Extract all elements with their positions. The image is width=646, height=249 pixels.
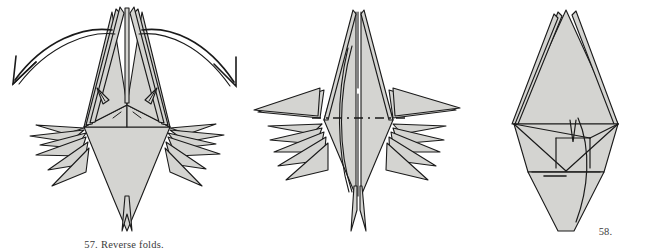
figure-57-number: 57. (84, 239, 98, 249)
figure-59-paper (512, 10, 618, 231)
figure-panel-59: 59. (470, 0, 646, 249)
figure-panel-58: 58. (248, 0, 470, 249)
figure-57-illustration (0, 0, 248, 232)
diagram-page: 57.Reverse folds. (0, 0, 646, 249)
figure-58-paper (254, 10, 460, 231)
figure-57-caption: 57.Reverse folds. (0, 239, 248, 249)
figure-panel-57: 57.Reverse folds. (0, 0, 248, 249)
figure-59-illustration (470, 0, 646, 232)
figure-58-illustration (248, 0, 470, 232)
figure-57-caption-text: Reverse folds. (101, 239, 164, 249)
